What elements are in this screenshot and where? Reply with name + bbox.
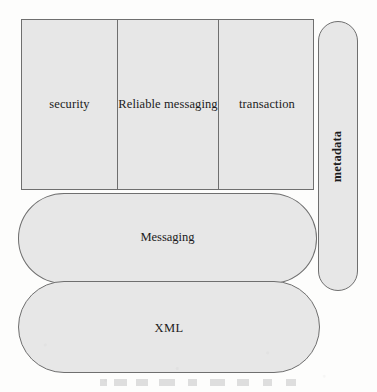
metadata-tab-label: metadata: [331, 130, 346, 182]
layer-messaging: Messaging: [18, 193, 317, 284]
top-cell-transaction: transaction: [219, 20, 315, 189]
top-cell-reliable-messaging: Reliable messaging: [117, 20, 219, 189]
top-cell-security-label: security: [49, 97, 89, 112]
layer-xml: XML: [18, 281, 320, 373]
diagram-canvas: metadata security Reliable messaging tra…: [0, 0, 377, 392]
metadata-tab: metadata: [318, 21, 358, 291]
layer-xml-label: XML: [155, 321, 184, 336]
layer-messaging-label: Messaging: [140, 230, 194, 245]
top-cell-reliable-messaging-label: Reliable messaging: [118, 97, 217, 112]
top-cell-security: security: [22, 20, 117, 189]
top-cell-transaction-label: transaction: [239, 97, 295, 112]
page-bleedthrough-text: [96, 379, 296, 386]
top-band: security Reliable messaging transaction: [21, 19, 314, 190]
